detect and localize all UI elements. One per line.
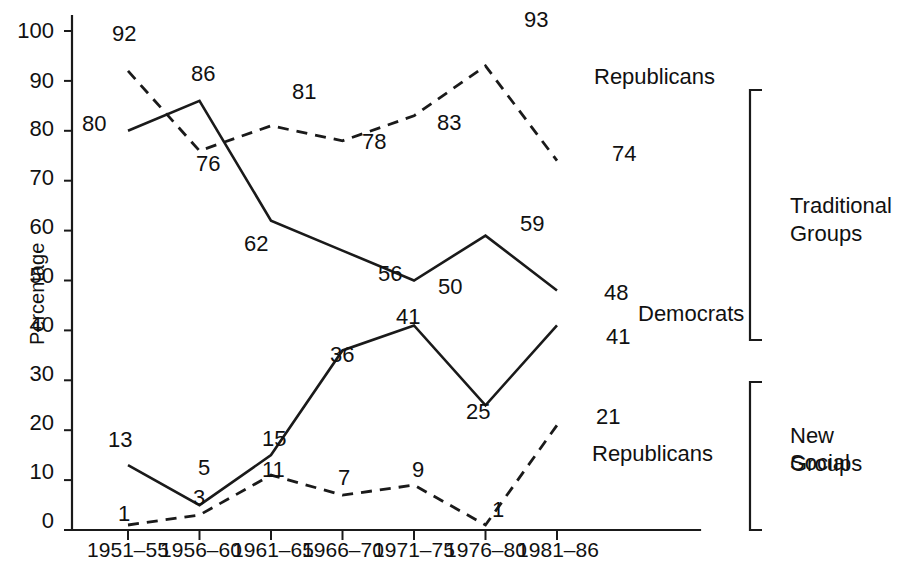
x-tick-label-1981-86: 1981–86: [500, 538, 616, 561]
series-label-new-social-republicans: Republicans: [592, 442, 713, 465]
point-label-trad-rep-5: 93: [524, 8, 548, 31]
point-label-trad-rep-3: 78: [362, 130, 386, 153]
point-label-trad-rep-6: 74: [612, 142, 636, 165]
point-label-new-dem-6: 41: [606, 325, 630, 348]
y-tick-label-100: 100: [0, 19, 54, 42]
series-label-traditional-republicans: Republicans: [594, 65, 715, 88]
group-label-traditional-groups-line1: Traditional: [790, 192, 892, 219]
point-label-trad-dem-4: 50: [438, 275, 462, 298]
y-tick-label-80: 80: [0, 117, 54, 140]
point-label-trad-rep-1: 76: [196, 152, 220, 175]
point-label-new-dem-3: 36: [330, 343, 354, 366]
point-label-new-dem-0: 13: [108, 428, 132, 451]
point-label-trad-dem-3: 56: [378, 262, 402, 285]
y-tick-label-30: 30: [0, 362, 54, 385]
point-label-new-rep-4: 9: [412, 458, 424, 481]
group-label-traditional-groups-line2: Groups: [790, 220, 862, 247]
point-label-trad-dem-2: 62: [244, 232, 268, 255]
bracket-traditional-groups: [750, 90, 762, 340]
point-label-new-rep-2: 11: [262, 458, 285, 481]
y-tick-label-0: 0: [0, 509, 54, 532]
y-tick-label-90: 90: [0, 69, 54, 92]
point-label-trad-rep-0: 92: [112, 22, 136, 45]
point-label-new-dem-1: 5: [198, 456, 210, 479]
y-tick-label-70: 70: [0, 166, 54, 189]
point-label-new-rep-1: 3: [193, 486, 205, 509]
y-axis-ticks: [64, 31, 72, 530]
point-label-trad-rep-4: 83: [437, 111, 461, 134]
y-tick-label-20: 20: [0, 411, 54, 434]
series-label-traditional-democrats: Democrats: [638, 302, 744, 325]
chart-page: Percentage 100 90 80 70 60 50 40 30 20 1…: [0, 0, 898, 564]
y-tick-label-10: 10: [0, 460, 54, 483]
bracket-new-social-groups: [750, 382, 762, 530]
series-line-traditional-democrats: [128, 101, 557, 291]
group-label-new-social-groups-line2: Groups: [790, 450, 862, 477]
point-label-new-dem-2: 15: [262, 427, 286, 450]
point-label-trad-dem-6: 48: [604, 281, 628, 304]
point-label-trad-dem-0: 80: [82, 112, 106, 135]
point-label-trad-dem-1: 86: [191, 62, 215, 85]
y-tick-label-60: 60: [0, 215, 54, 238]
point-label-new-rep-3: 7: [338, 466, 350, 489]
point-label-new-dem-4: 41: [396, 305, 420, 328]
point-label-new-rep-0: 1: [118, 502, 130, 525]
point-label-new-dem-5: 25: [466, 400, 490, 423]
point-label-new-rep-6: 21: [596, 405, 620, 428]
point-label-trad-rep-2: 81: [292, 80, 316, 103]
y-tick-label-40: 40: [0, 313, 54, 336]
point-label-new-rep-5: 1: [492, 498, 504, 521]
point-label-trad-dem-5: 59: [520, 212, 544, 235]
y-tick-label-50: 50: [0, 264, 54, 287]
